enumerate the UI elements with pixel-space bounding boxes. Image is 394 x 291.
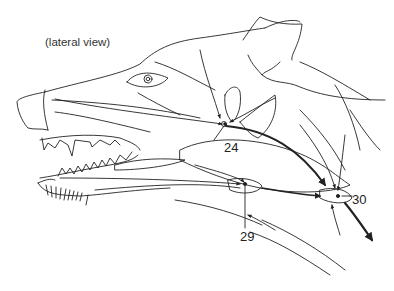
- label-24: 24: [224, 141, 238, 154]
- view-label: (lateral view): [45, 37, 110, 49]
- label-30: 30: [352, 193, 366, 206]
- drainage-arrows: [55, 50, 372, 240]
- eye: [127, 73, 168, 87]
- label-29: 29: [240, 230, 254, 243]
